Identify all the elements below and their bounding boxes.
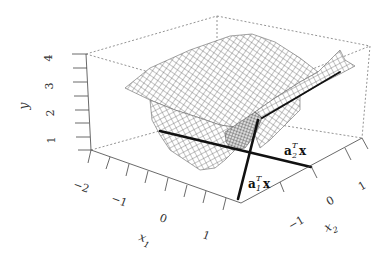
x1-tick-0: 0 xyxy=(158,211,169,226)
x2-tick-0: 0 xyxy=(324,194,337,209)
y-tick-2: 2 xyxy=(44,110,57,117)
x1-tick-neg2: −2 xyxy=(71,178,91,196)
svg-text:1: 1 xyxy=(256,184,261,193)
svg-text:T: T xyxy=(256,174,262,183)
y-tick-labels: 4 3 2 1 xyxy=(42,55,58,144)
y-tick-4: 4 xyxy=(42,55,55,62)
y-tick-3: 3 xyxy=(43,83,56,90)
x1-axis-label: x 1 xyxy=(136,230,153,250)
svg-text:a: a xyxy=(248,177,256,191)
annotation-a2: a T 2 x xyxy=(284,141,307,160)
svg-text:2: 2 xyxy=(331,225,340,236)
svg-text:2: 2 xyxy=(291,151,297,160)
svg-text:x: x xyxy=(299,144,307,158)
y-axis-label: y xyxy=(17,102,31,110)
y-tick-1: 1 xyxy=(45,137,58,144)
svg-text:x: x xyxy=(263,177,271,191)
svg-text:a: a xyxy=(284,144,292,158)
surface-plot: 4 3 2 1 y −2 −1 0 1 x 1 −1 0 1 x 2 a T 2… xyxy=(0,0,384,260)
x1-tick-neg1: −1 xyxy=(109,192,129,210)
x1-tick-1: 1 xyxy=(201,228,212,243)
x2-tick-neg1: −1 xyxy=(286,213,307,232)
x2-axis-label: x 2 xyxy=(322,218,339,238)
svg-text:T: T xyxy=(292,141,298,150)
x2-tick-1: 1 xyxy=(356,179,369,194)
annotation-a1: a T 1 x xyxy=(248,174,271,193)
